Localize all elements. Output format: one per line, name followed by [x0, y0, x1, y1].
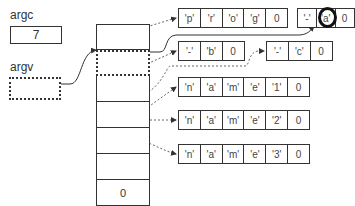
char-cell: 'c' — [288, 41, 311, 61]
char-cell: 'r' — [200, 8, 223, 28]
char-cell: 0 — [287, 144, 310, 164]
char-cell: 0 — [265, 8, 288, 28]
char-cell: '2' — [265, 110, 288, 130]
char-cell: '-' — [297, 8, 317, 28]
char-cell-circled: 'a' — [316, 8, 336, 28]
char-cell: 'a' — [200, 110, 223, 130]
string-name2: 'n' 'a' 'm' 'e' '2' 0 — [178, 110, 310, 130]
char-cell: 'a' — [200, 77, 223, 97]
argv-pointer-box — [9, 77, 61, 100]
char-cell: 'n' — [178, 77, 201, 97]
array-cell — [96, 76, 150, 102]
char-cell: 'e' — [243, 110, 266, 130]
char-cell: '-' — [178, 41, 201, 61]
char-cell: 0 — [310, 41, 333, 61]
array-cell — [96, 24, 150, 50]
char-cell: 0 — [222, 41, 245, 61]
char-cell: 'n' — [178, 144, 201, 164]
string-name1: 'n' 'a' 'm' 'e' '1' 0 — [178, 77, 310, 97]
char-cell: '-' — [266, 41, 289, 61]
argc-value-box: 7 — [10, 26, 62, 44]
string-opt-c: '-' 'c' 0 — [266, 41, 333, 61]
char-cell: 'm' — [222, 77, 245, 97]
char-cell: 'p' — [178, 8, 201, 28]
array-cell-highlighted — [96, 50, 150, 76]
char-cell: 'e' — [243, 144, 266, 164]
char-cell: 'm' — [222, 110, 245, 130]
argv-label: argv — [10, 60, 33, 74]
char-cell: 'a' — [200, 144, 223, 164]
argc-label: argc — [10, 8, 33, 22]
char-cell: 'o' — [222, 8, 245, 28]
array-cell-null: 0 — [96, 180, 150, 206]
pointer-array: 0 — [96, 24, 150, 206]
char-cell: 'b' — [200, 41, 223, 61]
char-cell: 0 — [335, 8, 355, 28]
char-cell: 0 — [287, 110, 310, 130]
array-cell — [96, 102, 150, 128]
string-opt-b: '-' 'b' 0 — [178, 41, 245, 61]
char-cell: 'n' — [178, 110, 201, 130]
char-cell: '1' — [265, 77, 288, 97]
array-cell — [96, 154, 150, 180]
char-cell: '3' — [265, 144, 288, 164]
char-cell: 'm' — [222, 144, 245, 164]
char-cell: 'g' — [243, 8, 266, 28]
string-name3: 'n' 'a' 'm' 'e' '3' 0 — [178, 144, 310, 164]
string-prog: 'p' 'r' 'o' 'g' 0 — [178, 8, 288, 28]
string-opt-a: '-' 'a' 0 — [297, 8, 355, 28]
array-cell — [96, 128, 150, 154]
char-cell: 'e' — [243, 77, 266, 97]
char-cell: 0 — [287, 77, 310, 97]
